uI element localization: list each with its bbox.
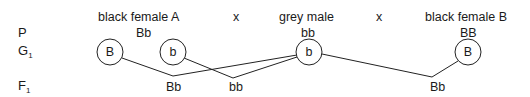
row-label-offspring-sub: 1 bbox=[26, 86, 30, 95]
parent-genotype-grey-male: bb bbox=[301, 26, 315, 40]
line-gameteA-b-to-f1-2 bbox=[184, 58, 233, 78]
parent-genotype-female-b: BB bbox=[460, 26, 477, 40]
parent-name-grey-male: grey male bbox=[279, 10, 334, 24]
parent-genotype-female-a: Bb bbox=[136, 26, 151, 40]
line-femaleB-B-to-f1-3 bbox=[432, 61, 458, 77]
parent-name-female-b: black female B bbox=[425, 10, 507, 24]
row-label-parents: P bbox=[18, 26, 27, 40]
offspring-genotype-3: Bb bbox=[430, 80, 445, 94]
offspring-genotype-1: Bb bbox=[166, 80, 181, 94]
row-label-offspring-main: F bbox=[18, 78, 26, 93]
row-label-gametes-main: G bbox=[18, 43, 28, 58]
row-label-gametes: G1 bbox=[18, 44, 33, 63]
row-label-offspring: F1 bbox=[18, 79, 30, 97]
gamete-allele-4: B bbox=[455, 45, 481, 59]
gamete-allele-3: b bbox=[296, 45, 322, 59]
gamete-allele-1: B bbox=[97, 45, 123, 59]
gamete-allele-2: b bbox=[160, 45, 186, 59]
line-male-b-to-f1-3 bbox=[322, 54, 432, 77]
row-label-gametes-sub: 1 bbox=[28, 51, 32, 60]
cross-symbol-1: x bbox=[233, 10, 239, 24]
parent-name-female-a: black female A bbox=[98, 10, 179, 24]
cross-symbol-2: x bbox=[376, 10, 382, 24]
offspring-genotype-2: bb bbox=[229, 80, 243, 94]
line-male-b-to-f1-1 bbox=[173, 55, 297, 76]
